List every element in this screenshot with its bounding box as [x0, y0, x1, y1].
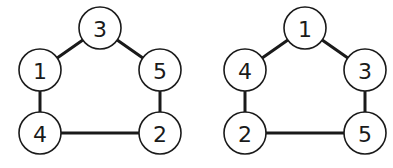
- node-label: 2: [238, 122, 252, 147]
- node-label: 4: [238, 59, 252, 84]
- node-2: 2: [224, 112, 266, 154]
- node-label: 2: [153, 122, 167, 147]
- node-3: 3: [79, 7, 121, 49]
- node-5: 5: [344, 112, 386, 154]
- node-label: 3: [358, 59, 372, 84]
- node-1: 1: [284, 7, 326, 49]
- node-label: 4: [33, 122, 47, 147]
- node-3: 3: [344, 49, 386, 91]
- node-5: 5: [139, 49, 181, 91]
- graph-right: 14325: [224, 7, 386, 154]
- graph-diagram: 31542 14325: [0, 0, 393, 168]
- node-2: 2: [139, 112, 181, 154]
- node-label: 1: [298, 17, 312, 42]
- node-label: 5: [153, 59, 167, 84]
- node-label: 3: [93, 17, 107, 42]
- node-4: 4: [224, 49, 266, 91]
- node-4: 4: [19, 112, 61, 154]
- graph-left: 31542: [19, 7, 181, 154]
- node-label: 5: [358, 122, 372, 147]
- node-label: 1: [33, 59, 47, 84]
- node-1: 1: [19, 49, 61, 91]
